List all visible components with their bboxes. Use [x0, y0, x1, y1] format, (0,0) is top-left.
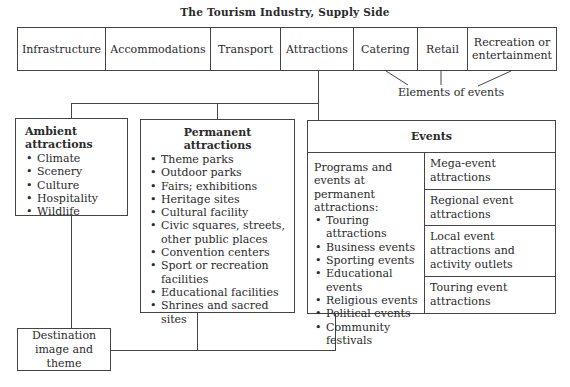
- events-left-intro: Programs and events at permanent attract…: [314, 161, 424, 214]
- events-local: Local event attractions and activity out…: [425, 226, 555, 277]
- sector-infrastructure: Infrastructure: [18, 28, 106, 70]
- events-regional: Regional event attractions: [425, 190, 555, 226]
- list-item: Theme parks: [149, 153, 294, 166]
- events-title: Events: [411, 130, 452, 143]
- sector-retail: Retail: [418, 28, 468, 70]
- list-item: Scenery: [25, 165, 127, 178]
- list-item: Outdoor parks: [149, 166, 294, 179]
- permanent-title: Permanent attractions: [149, 126, 294, 152]
- events-mega: Mega-event attractions: [425, 153, 555, 190]
- supply-sectors-row: Infrastructure Accommodations Transport …: [17, 27, 557, 71]
- elements-of-events-label: Elements of events: [398, 86, 504, 99]
- list-item: Educational events: [314, 267, 424, 294]
- list-item: Civic squares, streets, other public pla…: [149, 219, 294, 246]
- sector-recreation: Recreation or entertainment: [468, 28, 556, 70]
- ambient-attractions-box: Ambient attractions Climate Scenery Cult…: [15, 118, 128, 216]
- events-touring: Touring event attractions: [425, 277, 555, 313]
- recreation-connector: [478, 71, 511, 86]
- destination-image-box: Destination image and theme: [17, 328, 111, 371]
- list-item: Community festivals: [314, 321, 424, 348]
- list-item: Political events: [314, 307, 424, 320]
- permanent-list: Theme parks Outdoor parks Fairs; exhibit…: [149, 153, 294, 326]
- list-item: Business events: [314, 241, 424, 254]
- events-body: Programs and events at permanent attract…: [308, 153, 555, 313]
- list-item: Cultural facility: [149, 206, 294, 219]
- list-item: Touring attractions: [314, 214, 424, 241]
- ambient-list: Climate Scenery Culture Hospitality Wild…: [25, 152, 127, 218]
- events-box: Events Programs and events at permanent …: [307, 120, 556, 314]
- events-header: Events: [308, 121, 555, 153]
- ambient-title: Ambient attractions: [25, 125, 127, 151]
- events-left-column: Programs and events at permanent attract…: [308, 153, 425, 313]
- sector-catering: Catering: [354, 28, 418, 70]
- list-item: Climate: [25, 152, 127, 165]
- list-item: Sport or recreation facilities: [149, 259, 294, 286]
- list-item: Hospitality: [25, 192, 127, 205]
- list-item: Sporting events: [314, 254, 424, 267]
- list-item: Culture: [25, 179, 127, 192]
- sector-attractions: Attractions: [281, 28, 354, 70]
- sector-transport: Transport: [211, 28, 281, 70]
- list-item: Fairs; exhibitions: [149, 180, 294, 193]
- list-item: Shrines and sacred sites: [149, 299, 294, 326]
- list-item: Heritage sites: [149, 193, 294, 206]
- diagram-title: The Tourism Industry, Supply Side: [0, 6, 570, 18]
- list-item: Convention centers: [149, 246, 294, 259]
- permanent-attractions-box: Permanent attractions Theme parks Outdoo…: [140, 119, 295, 313]
- list-item: Wildlife: [25, 205, 127, 218]
- sector-accommodations: Accommodations: [106, 28, 211, 70]
- list-item: Educational facilities: [149, 286, 294, 299]
- events-left-list: Touring attractions Business events Spor…: [314, 214, 424, 347]
- catering-connector: [386, 71, 408, 85]
- events-right-column: Mega-event attractions Regional event at…: [425, 153, 555, 313]
- list-item: Religious events: [314, 294, 424, 307]
